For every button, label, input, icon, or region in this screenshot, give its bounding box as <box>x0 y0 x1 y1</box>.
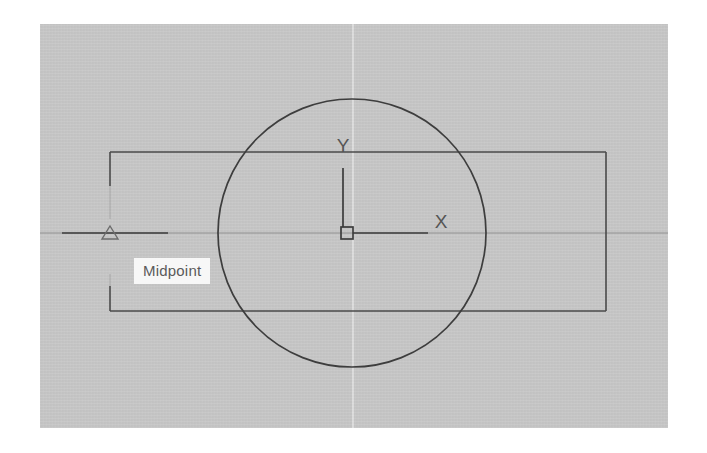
osnap-tooltip: Midpoint <box>134 258 210 284</box>
ucs-y-axis-label: Y <box>337 135 350 156</box>
application-window: X Y Midpoint <box>0 0 707 453</box>
drawing-entities: X Y <box>40 24 668 428</box>
drawing-canvas[interactable]: X Y Midpoint <box>40 24 668 428</box>
ucs-x-axis-label: X <box>435 211 448 232</box>
